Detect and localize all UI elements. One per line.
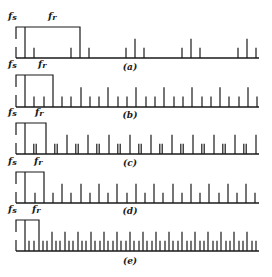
panel-caption: (d): [123, 206, 138, 216]
spectrum-diagram: fsfr(a)fsfr(b)fsfr(c)fsfr(d)fsfr(e): [0, 0, 272, 277]
panel-caption: (c): [123, 158, 137, 168]
fs-label: fs: [7, 10, 17, 22]
fr-bracket: [16, 220, 39, 251]
fs-label: fs: [7, 58, 17, 70]
fr-label: fr: [47, 10, 57, 22]
fr-bracket: [16, 172, 44, 203]
fr-label: fr: [33, 155, 43, 167]
panel-caption: (b): [123, 110, 138, 120]
fr-label: fr: [31, 203, 41, 215]
fr-label: fr: [34, 106, 44, 118]
fr-label: fr: [37, 58, 47, 70]
panel-caption: (e): [123, 256, 137, 266]
panel-caption: (a): [123, 62, 137, 72]
fr-bracket: [16, 123, 46, 154]
fs-label: fs: [7, 106, 17, 118]
fs-label: fs: [7, 203, 17, 215]
fs-label: fs: [7, 155, 17, 167]
